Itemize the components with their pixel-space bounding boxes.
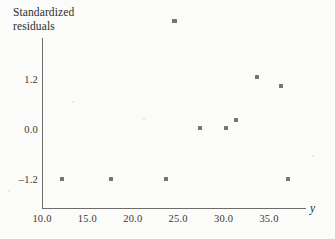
y-tick-label: –1.2	[4, 174, 38, 185]
data-point	[255, 75, 259, 79]
data-point	[60, 177, 64, 181]
x-tick-label: 15.0	[67, 213, 107, 224]
data-point	[109, 177, 113, 181]
x-tick-label: 35.0	[249, 213, 289, 224]
data-point	[234, 118, 238, 122]
data-point	[286, 177, 290, 181]
x-axis-line	[42, 208, 306, 209]
paper-speckle	[312, 155, 314, 157]
y-tick-label: 1.2	[4, 74, 38, 85]
data-point	[198, 126, 202, 130]
paper-speckle	[8, 190, 10, 192]
x-tick-label: 10.0	[22, 213, 62, 224]
scatter-plot-figure: Standardized residuals 1.20.0–1.2 10.015…	[0, 0, 335, 239]
data-point	[172, 19, 176, 23]
data-point	[224, 126, 228, 130]
y-tick-label: 0.0	[4, 124, 38, 135]
y-axis-line	[42, 38, 43, 209]
paper-speckle	[72, 101, 74, 103]
y-axis-tick-labels: 1.20.0–1.2	[0, 0, 38, 239]
data-point	[279, 84, 283, 88]
x-tick-label: 30.0	[204, 213, 244, 224]
paper-speckle	[143, 118, 145, 120]
paper-speckle	[171, 98, 172, 99]
data-point	[164, 177, 168, 181]
x-tick-label: 25.0	[158, 213, 198, 224]
x-axis-label: y	[310, 202, 315, 214]
x-tick-label: 20.0	[113, 213, 153, 224]
